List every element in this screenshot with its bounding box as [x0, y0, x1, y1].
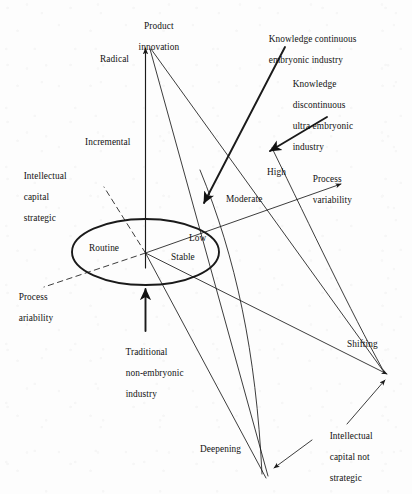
- knowledge-discontinuous-line3: ultra embryonic: [293, 121, 354, 131]
- product-innovation-line1: Product: [144, 21, 174, 31]
- knowledge-discontinuous-line4: industry: [293, 142, 324, 152]
- tick-label-high: High: [267, 167, 286, 178]
- axis-title-intellectual-capital-strategic: Intellectual capital strategic: [14, 160, 67, 234]
- tick-label-moderate: Moderate: [226, 194, 262, 205]
- ic-strategic-line1: Intellectual: [24, 171, 67, 181]
- callout-traditional-non-embryonic: Traditional non-embryonic industry: [116, 336, 184, 410]
- process-variability-line2: variability: [313, 195, 352, 205]
- tick-label-radical: Radical: [100, 54, 129, 65]
- axis-title-intellectual-capital-not-strategic: Intellectual capital not strategic: [320, 420, 373, 494]
- traditional-line1: Traditional: [126, 347, 168, 357]
- ic-not-strategic-line2: capital not: [330, 452, 370, 462]
- axis-title-process-variability: Process variability: [303, 163, 352, 216]
- knowledge-continuous-line1: Knowledge continuous: [269, 34, 357, 44]
- axis-title-process-ariability: Process ariability: [9, 281, 53, 334]
- arrow-not-strategic-to-deepening: [274, 440, 312, 468]
- process-variability-line1: Process: [313, 174, 342, 184]
- ic-strategic-line3: strategic: [24, 213, 56, 223]
- ic-not-strategic-line1: Intellectual: [330, 431, 373, 441]
- core-label-routine: Routine: [89, 243, 119, 254]
- process-ariability-line1: Process: [19, 292, 48, 302]
- knowledge-continuous-line2: embryonic industry: [269, 55, 343, 65]
- ic-strategic-line2: capital: [24, 192, 49, 202]
- traditional-line3: industry: [126, 389, 157, 399]
- process-ariability-line2: ariability: [19, 313, 54, 323]
- tick-label-deepening: Deepening: [200, 444, 241, 455]
- axis-line-process-ariability-dashed: [44, 253, 146, 287]
- diagram-root: Product innovation Radical Incremental I…: [0, 0, 412, 494]
- knowledge-discontinuous-line2: discontinuous: [293, 100, 346, 110]
- arrow-not-strategic-to-shifting: [347, 380, 385, 424]
- tick-label-incremental: Incremental: [85, 137, 130, 148]
- callout-knowledge-discontinuous: Knowledge discontinuous ultra embryonic …: [283, 68, 353, 163]
- axis-title-product-innovation: Product innovation: [121, 10, 187, 63]
- product-innovation-line2: innovation: [138, 42, 179, 52]
- core-label-stable: Stable: [171, 252, 195, 263]
- ic-not-strategic-line3: strategic: [330, 473, 362, 483]
- knowledge-discontinuous-line1: Knowledge: [293, 79, 337, 89]
- traditional-line2: non-embryonic: [126, 368, 184, 378]
- tick-label-shifting: Shifting: [347, 339, 378, 350]
- core-label-low: Low: [189, 233, 206, 244]
